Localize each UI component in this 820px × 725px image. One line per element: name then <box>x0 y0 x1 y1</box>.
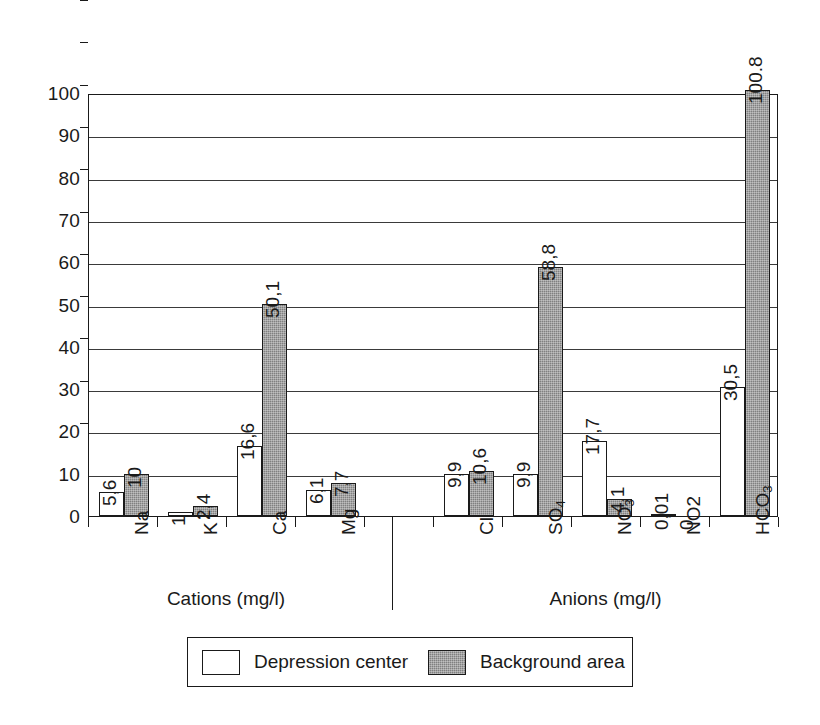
bar-HCO3-depression-center <box>720 387 745 516</box>
x-axis-label-HCO3: HCO3 <box>753 486 775 535</box>
y-tick-label-10: 10 <box>34 465 80 484</box>
legend-item-depression-center: Depression center <box>202 648 408 676</box>
gridline-20 <box>89 433 777 434</box>
x-tick-mark-4 <box>364 517 365 527</box>
x-axis-label-Ca: Ca <box>270 511 290 535</box>
y-tick-label-100: 100 <box>34 84 80 103</box>
group-title-cations: Cations (mg/l) <box>116 588 336 610</box>
y-tick-mark-60 <box>80 169 88 170</box>
bar-value-HCO3-background-area: 100.8 <box>746 56 765 104</box>
x-tick-mark-8 <box>640 517 641 527</box>
y-tick-mark-90 <box>80 42 88 43</box>
y-tick-mark-80 <box>80 85 88 86</box>
gray-bar-swatch <box>428 650 466 675</box>
bar-value-K-depression-center: 1 <box>169 515 188 526</box>
bar-value-HCO3-depression-center: 30,5 <box>721 364 740 401</box>
bar-chart: 0102030405060708090100 Depression center… <box>0 0 820 725</box>
bar-HCO3-background-area <box>745 90 770 516</box>
group-divider <box>392 517 393 610</box>
y-tick-mark-100 <box>80 0 88 1</box>
gridline-30 <box>89 391 777 392</box>
x-tick-mark-5 <box>433 517 434 527</box>
bar-value-Na-background-area: 10 <box>125 467 144 488</box>
y-tick-label-20: 20 <box>34 422 80 441</box>
gridline-80 <box>89 180 777 181</box>
bar-value-NO2-depression-center: 0,01 <box>652 493 671 530</box>
x-axis-label-NO3: NO3 <box>615 499 637 535</box>
gridline-90 <box>89 137 777 138</box>
x-tick-mark-7 <box>571 517 572 527</box>
bar-value-Cl-background-area: 10,6 <box>470 448 489 485</box>
white-bar-swatch <box>202 650 240 675</box>
gridline-10 <box>89 476 777 477</box>
y-tick-label-90: 90 <box>34 126 80 145</box>
x-tick-mark-1 <box>157 517 158 527</box>
legend-label: Depression center <box>254 652 408 672</box>
plot-area <box>88 94 778 517</box>
x-tick-mark-9 <box>709 517 710 527</box>
y-tick-mark-30 <box>80 296 88 297</box>
gridline-40 <box>89 349 777 350</box>
gridline-60 <box>89 264 777 265</box>
y-tick-label-70: 70 <box>34 211 80 230</box>
bar-value-Cl-depression-center: 9,9 <box>445 462 464 488</box>
y-tick-label-30: 30 <box>34 380 80 399</box>
gridline-50 <box>89 307 777 308</box>
y-tick-mark-40 <box>80 254 88 255</box>
bar-value-NO3-depression-center: 17,7 <box>583 418 602 455</box>
y-tick-mark-70 <box>80 127 88 128</box>
bar-value-K-background-area: 2,4 <box>194 493 213 519</box>
chart-legend: Depression centerBackground area <box>187 637 633 687</box>
y-axis: 0102030405060708090100 <box>20 94 80 517</box>
x-axis-label-Cl: Cl <box>477 517 497 535</box>
bar-value-Mg-background-area: 7,7 <box>332 471 351 497</box>
x-axis-label-Mg: Mg <box>339 509 359 535</box>
bar-value-SO4-background-area: 58,8 <box>539 244 558 281</box>
y-tick-label-0: 0 <box>34 507 80 526</box>
bar-Ca-background-area <box>262 304 287 516</box>
x-axis-label-SO4: SO4 <box>546 500 568 535</box>
x-tick-mark-3 <box>295 517 296 527</box>
y-tick-label-60: 60 <box>34 253 80 272</box>
y-tick-label-50: 50 <box>34 296 80 315</box>
legend-label: Background area <box>480 652 625 672</box>
bar-value-Ca-depression-center: 16,6 <box>238 423 257 460</box>
x-tick-mark-6 <box>502 517 503 527</box>
x-axis-label-K: K <box>201 522 221 535</box>
y-tick-mark-20 <box>80 338 88 339</box>
group-title-anions: Anions (mg/l) <box>496 588 716 610</box>
bar-value-Mg-depression-center: 6,1 <box>307 478 326 504</box>
y-tick-mark-50 <box>80 212 88 213</box>
x-axis-label-Na: Na <box>132 511 152 535</box>
bar-value-Ca-background-area: 50,1 <box>263 281 282 318</box>
legend-item-background-area: Background area <box>428 648 625 676</box>
y-tick-label-80: 80 <box>34 169 80 188</box>
y-tick-mark-10 <box>80 381 88 382</box>
x-tick-mark-2 <box>226 517 227 527</box>
y-tick-mark-0 <box>80 423 88 424</box>
y-tick-label-40: 40 <box>34 338 80 357</box>
x-tick-mark-0 <box>88 517 89 527</box>
x-axis-label-NO2: NO2 <box>684 496 704 535</box>
x-tick-mark-10 <box>778 517 779 527</box>
bar-value-Na-depression-center: 5,6 <box>100 480 119 506</box>
gridline-70 <box>89 222 777 223</box>
bar-value-SO4-depression-center: 9,9 <box>514 462 533 488</box>
bar-SO4-background-area <box>538 267 563 516</box>
